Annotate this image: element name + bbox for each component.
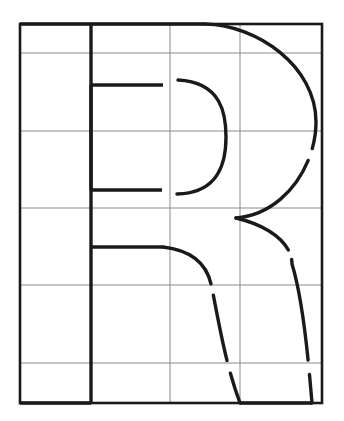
grid-frame-border [20, 24, 322, 403]
grid-vertical-lines [91, 24, 240, 403]
grid-horizontal-lines [20, 53, 322, 363]
letter-r-glyph [20, 24, 316, 403]
leg-inner-curve-segment-1 [163, 247, 240, 403]
leg-inner-curve-segment-3 [163, 247, 240, 403]
letter-r-construction-diagram [0, 0, 344, 421]
construction-grid [20, 24, 322, 403]
leg-inner-curve-segment-2 [163, 247, 240, 403]
diagram-canvas [0, 0, 344, 421]
leg-outer-curve-segment-2 [236, 218, 312, 403]
leg-outer-curve [236, 218, 312, 403]
bowl-inner-arc [177, 80, 226, 194]
leg-inner-curve [163, 247, 240, 403]
